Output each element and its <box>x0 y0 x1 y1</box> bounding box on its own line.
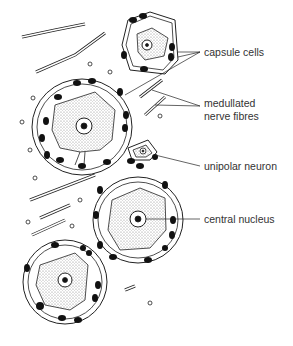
label-nerve-fibres: nerve fibres <box>204 110 259 123</box>
diagram-canvas: capsule cells medullated nerve fibres un… <box>0 0 293 346</box>
label-medullated: medullated <box>204 97 255 110</box>
label-central-nucleus: central nucleus <box>204 213 275 226</box>
neuron-unipolar <box>127 140 158 169</box>
neuron-bottom-left <box>23 240 107 324</box>
label-unipolar-neuron: unipolar neuron <box>204 160 277 173</box>
label-capsule-cells: capsule cells <box>204 46 264 59</box>
neuron-center-right <box>93 177 200 263</box>
neuron-top <box>121 12 178 74</box>
neuron-large-left <box>32 78 132 175</box>
